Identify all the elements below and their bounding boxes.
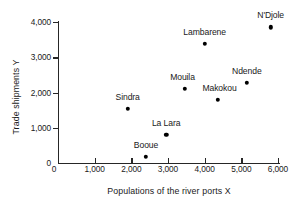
data-point [202,42,206,46]
y-axis-title: Trade shipments Y [11,35,21,160]
x-axis-tick-label: 4,000 [195,164,215,174]
x-axis-tick-label: 2,000 [121,164,141,174]
y-axis-tick-label: 3,000 [31,52,51,62]
y-axis-tick [53,57,59,58]
data-point-label: Ndende [232,66,262,76]
scatter-plot: 01,0002,0003,0004,000 01,0002,0003,0004,… [0,0,295,206]
x-axis-tick-label: 3,000 [158,164,178,174]
data-point [245,80,249,84]
y-axis-tick [53,128,59,129]
data-point [164,133,168,137]
y-axis-tick-label: 0 [46,158,51,168]
y-axis-tick [53,93,59,94]
y-axis-tick-label-group: 01,0002,0003,0004,000 [0,0,51,206]
data-point-label: Sindra [116,92,140,102]
y-axis-tick-label: 1,000 [31,123,51,133]
x-axis-tick-label: 6,000 [268,164,288,174]
data-point-label: Lambarene [183,27,226,37]
data-point-label: Mouila [170,72,195,82]
x-axis-tick-label: 5,000 [231,164,251,174]
data-point [215,97,219,101]
x-axis-tick-label: 1,000 [85,164,105,174]
data-point [268,25,272,29]
data-point-label: N'Djole [257,10,284,20]
y-axis-tick-label: 4,000 [31,17,51,27]
y-axis-tick [53,22,59,23]
data-point-label: Makokou [202,83,236,93]
data-point [125,107,129,111]
x-axis-tick-label: 0 [52,164,57,174]
data-point [182,87,186,91]
data-point-label: La Lara [152,118,180,128]
y-axis-tick-label: 2,000 [31,88,51,98]
data-point-label: Booue [134,140,158,150]
x-axis-title: Populations of the river ports X [58,186,280,196]
data-point [144,154,148,158]
